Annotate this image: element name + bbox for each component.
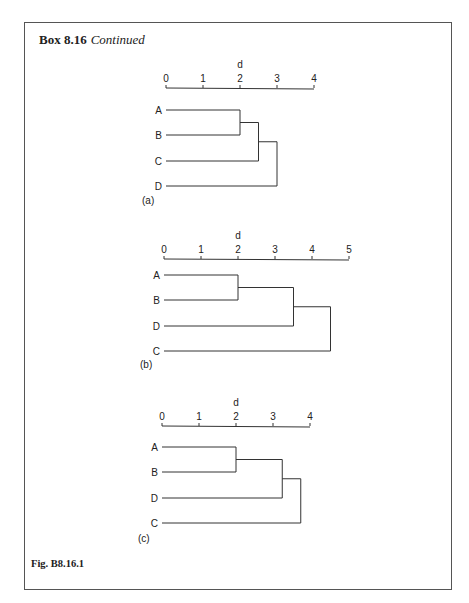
axis-tick-label: 2 [235,244,241,255]
leaf-label: C [153,346,160,357]
leaf-label: B [155,130,162,141]
leaf-label: A [151,442,158,453]
axis-tick-label: 4 [309,244,315,255]
leaf-label: A [155,105,162,116]
axis-tick-label: 3 [270,411,276,422]
axis-tick-label: 3 [274,73,280,84]
panel-label: (c) [138,533,150,544]
axis-label: d [235,230,241,241]
axis-tick-label: 2 [233,411,239,422]
axis-label: d [233,397,239,408]
leaf-label: D [153,321,160,332]
axis-tick-label: 2 [237,73,243,84]
dendrogram-panels: 01234dABCD(a)012345dABDC(b)01234dABDC(c) [0,0,469,603]
leaf-label: A [153,270,160,281]
leaf-label: C [155,156,162,167]
axis-tick-label: 5 [346,244,352,255]
dendrogram-b: 012345dABDC(b) [140,230,352,370]
axis-tick-label: 1 [200,73,206,84]
leaf-label: B [151,467,158,478]
axis-tick-label: 0 [163,73,169,84]
panel-label: (a) [142,195,154,206]
panel-label: (b) [140,359,152,370]
axis-tick-label: 0 [161,244,167,255]
axis-tick-label: 0 [159,411,165,422]
leaf-label: C [151,518,158,529]
axis-label: d [237,59,243,70]
leaf-label: B [153,295,160,306]
dendrogram-c: 01234dABDC(c) [138,397,313,544]
axis-tick-label: 3 [272,244,278,255]
axis-tick-label: 1 [196,411,202,422]
dendrogram-a: 01234dABCD(a) [142,59,317,206]
leaf-label: D [151,493,158,504]
axis-tick-label: 1 [198,244,204,255]
leaf-label: D [155,181,162,192]
axis-tick-label: 4 [307,411,313,422]
axis-tick-label: 4 [311,73,317,84]
